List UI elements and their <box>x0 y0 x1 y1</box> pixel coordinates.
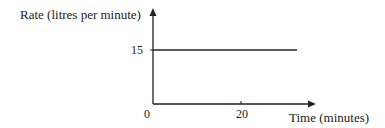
plot-area <box>0 0 385 128</box>
y-axis-arrow-icon <box>150 8 157 16</box>
x-axis-arrow-icon <box>308 101 316 108</box>
